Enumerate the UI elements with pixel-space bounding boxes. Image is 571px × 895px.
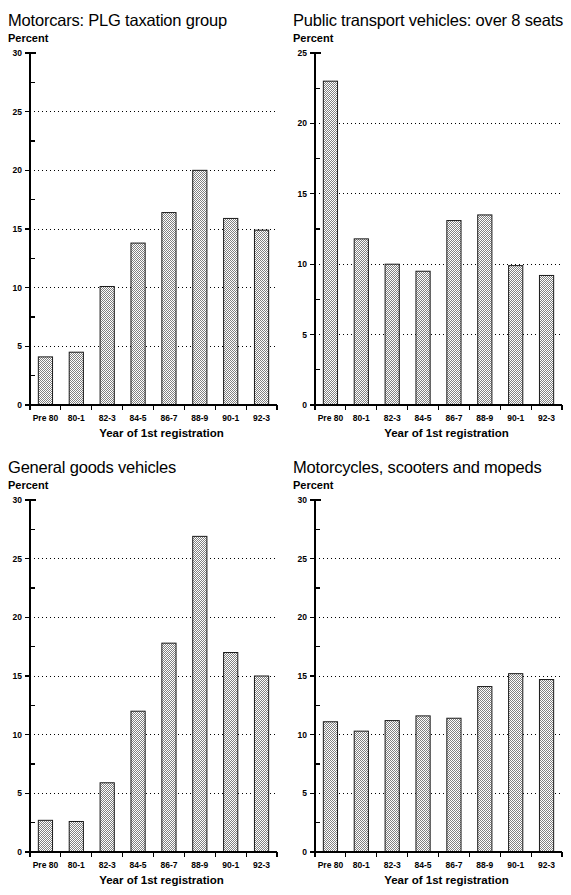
bar: [354, 239, 368, 405]
y-axis-tick-label: 5: [17, 341, 22, 351]
x-axis-category-label: 80-1: [68, 413, 85, 423]
x-axis-category-label: Pre 80: [318, 413, 344, 423]
x-axis-category-label: 84-5: [415, 860, 432, 870]
chart-title: Motorcycles, scooters and mopeds: [293, 459, 542, 476]
x-axis-category-label: 90-1: [222, 860, 239, 870]
x-axis-category-label: 80-1: [353, 413, 370, 423]
chart-canvas-motorcycles: 051015202530Pre 8080-182-384-586-788-990…: [285, 489, 570, 895]
x-axis-category-label: 90-1: [222, 413, 239, 423]
x-axis-category-label: 80-1: [353, 860, 370, 870]
y-axis-tick-label: 20: [298, 612, 308, 622]
x-axis-title: Year of 1st registration: [384, 874, 509, 886]
y-axis-tick-label: 20: [13, 612, 23, 622]
bar: [131, 711, 145, 852]
y-axis-tick-label: 10: [298, 730, 308, 740]
bar: [385, 721, 399, 852]
x-axis-category-label: 84-5: [415, 413, 432, 423]
x-axis-category-label: 84-5: [130, 860, 147, 870]
bar: [100, 286, 114, 405]
bar: [354, 731, 368, 852]
y-axis-tick-label: 15: [13, 224, 23, 234]
x-axis-title: Year of 1st registration: [99, 427, 224, 439]
x-axis-category-label: 88-9: [191, 413, 208, 423]
y-axis-tick-label: 10: [13, 730, 23, 740]
y-axis-tick-label: 25: [13, 554, 23, 564]
bar: [416, 716, 430, 852]
x-axis-category-label: Pre 80: [33, 413, 59, 423]
bar: [69, 352, 83, 405]
y-axis-tick-label: 30: [298, 495, 308, 505]
x-axis-title: Year of 1st registration: [384, 427, 509, 439]
x-axis-category-label: 80-1: [68, 860, 85, 870]
x-axis-category-label: 86-7: [160, 860, 177, 870]
x-axis-category-label: Pre 80: [318, 860, 344, 870]
chart-title: General goods vehicles: [8, 459, 176, 476]
chart-title: Motorcars: PLG taxation group: [8, 12, 227, 29]
bar: [38, 357, 52, 405]
y-axis-tick-label: 0: [302, 847, 307, 857]
chart-grid: Motorcars: PLG taxation group Percent 05…: [0, 0, 571, 895]
chart-panel-public-transport: Public transport vehicles: over 8 seats …: [285, 0, 571, 447]
x-axis-category-label: 86-7: [160, 413, 177, 423]
chart-canvas-motorcars: 051015202530Pre 8080-182-384-586-788-990…: [0, 42, 285, 451]
chart-panel-general-goods: General goods vehicles Percent 051015202…: [0, 447, 285, 895]
bar: [69, 821, 83, 852]
x-axis-category-label: 88-9: [476, 413, 493, 423]
x-axis-category-label: 82-3: [99, 860, 116, 870]
bar: [38, 820, 52, 852]
y-axis-tick-label: 15: [298, 671, 308, 681]
bar: [539, 680, 553, 852]
y-axis-tick-label: 20: [298, 118, 308, 128]
x-axis-category-label: 92-3: [538, 413, 555, 423]
y-axis-tick-label: 25: [13, 107, 23, 117]
x-axis-category-label: 86-7: [445, 860, 462, 870]
x-axis-category-label: 82-3: [99, 413, 116, 423]
bar: [385, 264, 399, 405]
chart-panel-motorcycles: Motorcycles, scooters and mopeds Percent…: [285, 447, 571, 895]
y-axis-tick-label: 20: [13, 165, 23, 175]
bar: [447, 221, 461, 405]
bar: [447, 718, 461, 852]
bar: [193, 170, 207, 405]
y-axis-tick-label: 30: [13, 48, 23, 58]
x-axis-category-label: 92-3: [253, 860, 270, 870]
y-axis-tick-label: 0: [17, 400, 22, 410]
y-axis-tick-label: 25: [298, 554, 308, 564]
y-axis-tick-label: 0: [302, 400, 307, 410]
bar: [254, 230, 268, 405]
chart-canvas-general-goods: 051015202530Pre 8080-182-384-586-788-990…: [0, 489, 285, 895]
bar: [162, 213, 176, 405]
bar: [478, 215, 492, 405]
bar: [100, 783, 114, 852]
x-axis-category-label: 92-3: [538, 860, 555, 870]
x-axis-category-label: 84-5: [130, 413, 147, 423]
y-axis-tick-label: 0: [17, 847, 22, 857]
bar: [509, 674, 523, 852]
chart-title: Public transport vehicles: over 8 seats: [293, 12, 563, 29]
y-axis-tick-label: 5: [302, 330, 307, 340]
x-axis-category-label: 92-3: [253, 413, 270, 423]
bar: [224, 218, 238, 405]
bar: [254, 676, 268, 852]
y-axis-tick-label: 15: [298, 189, 308, 199]
bar: [509, 266, 523, 405]
x-axis-category-label: 82-3: [384, 860, 401, 870]
x-axis-category-label: Pre 80: [33, 860, 59, 870]
x-axis-category-label: 82-3: [384, 413, 401, 423]
bar: [416, 271, 430, 405]
y-axis-tick-label: 15: [13, 671, 23, 681]
chart-panel-motorcars: Motorcars: PLG taxation group Percent 05…: [0, 0, 285, 447]
bar: [323, 81, 337, 405]
y-axis-tick-label: 5: [302, 788, 307, 798]
y-axis-tick-label: 25: [298, 48, 308, 58]
y-axis-tick-label: 10: [13, 283, 23, 293]
y-axis-tick-label: 30: [13, 495, 23, 505]
bar: [478, 687, 492, 852]
bar: [539, 275, 553, 405]
x-axis-category-label: 88-9: [476, 860, 493, 870]
bar: [224, 653, 238, 852]
bar: [131, 243, 145, 405]
chart-canvas-public-transport: 0510152025Pre 8080-182-384-586-788-990-1…: [285, 42, 570, 451]
x-axis-category-label: 90-1: [507, 860, 524, 870]
x-axis-category-label: 90-1: [507, 413, 524, 423]
